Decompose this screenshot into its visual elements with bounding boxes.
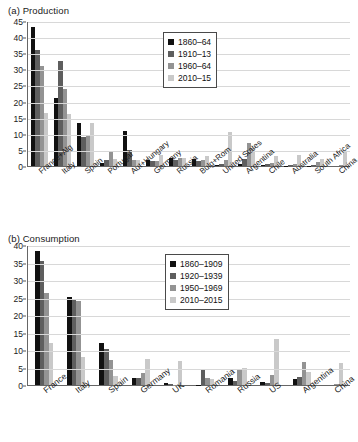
gridline [28,246,350,247]
legend-label: 2010–15 [178,74,211,83]
consumption-panel: (b) Consumption 0510152025303540 FranceI… [0,228,354,442]
gridline [28,135,350,136]
legend-row: 1960–64 [168,60,211,72]
panel-a-x-axis-labels: France+AlgItalySpainPortugalAut+HungaryG… [27,167,350,215]
x-label-cell: Russia [221,386,253,434]
panel-b-x-axis-labels: FranceItalySpainGermanyUKRomaniaRussiaUS… [27,386,350,434]
legend-swatch-icon [168,63,174,69]
y-tick-label: 15 [14,329,23,338]
y-tick-mark [23,118,26,119]
legend-swatch-icon [168,51,174,57]
legend-swatch-icon [170,285,176,291]
panel-b-title: (b) Consumption [0,228,354,244]
y-tick-mark [23,298,26,299]
legend-swatch-icon [170,297,176,303]
x-label-cell: Portugal [96,167,119,215]
bar [274,339,279,385]
y-tick-mark [23,316,26,317]
x-label-cell: Argentina [285,386,317,434]
y-tick-label: 15 [14,114,23,123]
legend-row: 1950–1969 [170,282,223,294]
legend-label: 1960–64 [178,62,211,71]
y-tick-label: 25 [14,82,23,91]
x-label-cell: UK [156,386,188,434]
y-tick-mark [23,102,26,103]
legend-label: 1910–13 [178,50,211,59]
gridline [28,369,350,370]
y-tick-mark [23,368,26,369]
bar [44,113,48,166]
legend-label: 1860–64 [178,38,211,47]
gridline [28,103,350,104]
legend-label: 1860–1909 [180,260,223,269]
gridline [28,151,350,152]
x-label-cell: Russia [165,167,188,215]
y-tick-label: 10 [14,131,23,140]
x-label-cell: Chile [258,167,281,215]
legend-swatch-icon [170,273,176,279]
legend-row: 1860–1909 [170,258,223,270]
x-label-cell: China [327,167,350,215]
x-label-cell: Argentina [235,167,258,215]
bar [67,114,71,166]
x-label-cell: Italy [59,386,91,434]
x-label-cell: Aut+Hungary [119,167,142,215]
bar-group [28,22,51,166]
panel-b-y-axis: 0510152025303540 [0,246,26,386]
y-tick-label: 40 [14,34,23,43]
legend-label: 2010–2015 [180,296,223,305]
x-label-cell: Romania [188,386,220,434]
y-tick-mark [23,86,26,87]
y-tick-label: 30 [14,277,23,286]
legend-row: 1860–64 [168,36,211,48]
gridline [28,334,350,335]
panel-a-legend: 1860–641910–131960–642010–15 [163,32,217,88]
y-tick-mark [23,54,26,55]
bar-group [97,22,120,166]
legend-swatch-icon [170,261,176,267]
legend-swatch-icon [168,75,174,81]
y-tick-label: 40 [14,242,23,251]
x-label-cell: China [318,386,350,434]
y-tick-mark [23,38,26,39]
legend-row: 2010–15 [168,72,211,84]
legend-row: 1910–13 [168,48,211,60]
y-tick-mark [23,22,26,23]
x-label-cell: United States [212,167,235,215]
y-tick-label: 45 [14,18,23,27]
bar-group [74,22,97,166]
bar-group [120,22,143,166]
y-tick-mark [23,246,26,247]
y-tick-mark [23,281,26,282]
gridline [28,316,350,317]
x-label-cell: Italy [50,167,73,215]
panel-b-legend: 1860–19091920–19391950–19692010–2015 [165,254,229,310]
y-tick-label: 35 [14,50,23,59]
y-tick-mark [23,263,26,264]
y-tick-label: 10 [14,347,23,356]
production-panel: (a) Production 051015202530354045 France… [0,0,354,228]
x-label-cell: Australia [281,167,304,215]
y-tick-label: 25 [14,294,23,303]
x-label-cell: France [27,386,59,434]
y-tick-label: 35 [14,259,23,268]
y-tick-mark [23,167,26,168]
legend-row: 2010–2015 [170,294,223,306]
x-label-cell: US [253,386,285,434]
gridline [28,119,350,120]
gridline [28,22,350,23]
y-tick-mark [23,70,26,71]
panel-a-y-axis: 051015202530354045 [0,22,26,167]
y-tick-mark [23,351,26,352]
y-tick-mark [23,386,26,387]
y-tick-label: 20 [14,312,23,321]
x-label-cell: Spain [73,167,96,215]
x-label-cell: Germany [142,167,165,215]
bar-group [304,22,327,166]
x-label-cell: Spain [92,386,124,434]
legend-label: 1920–1939 [180,272,223,281]
y-tick-label: 30 [14,66,23,75]
y-tick-mark [23,134,26,135]
bar-group [281,22,304,166]
x-label-cell: South Africa [304,167,327,215]
